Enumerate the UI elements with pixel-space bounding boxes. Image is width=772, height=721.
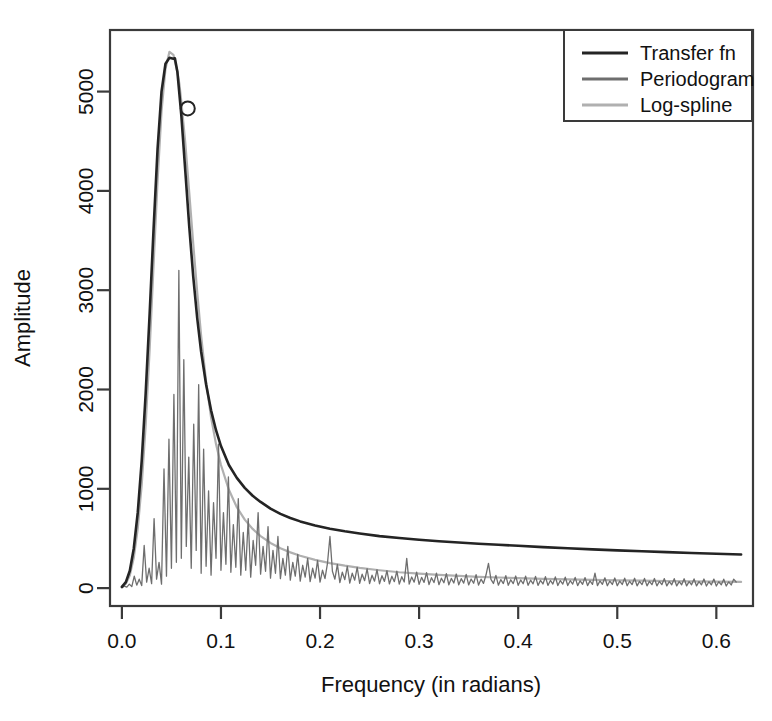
y-axis-ticks: 010002000300040005000 xyxy=(74,68,110,594)
legend-items: Transfer fnPeriodogramLog-spline xyxy=(582,42,755,116)
series-layer xyxy=(122,52,741,588)
x-tick-label: 0.1 xyxy=(206,629,235,652)
y-tick-label: 5000 xyxy=(74,68,97,115)
y-tick-label: 2000 xyxy=(74,366,97,413)
x-axis-title: Frequency (in radians) xyxy=(321,672,541,697)
figure-panel: 0.00.10.20.30.40.50.6 010002000300040005… xyxy=(0,0,772,721)
legend-label-0: Transfer fn xyxy=(640,42,736,64)
legend-label-1: Periodogram xyxy=(640,68,755,90)
x-tick-label: 0.3 xyxy=(405,629,434,652)
series-line-log-spline xyxy=(122,52,741,587)
x-tick-label: 0.4 xyxy=(504,629,534,652)
y-tick-label: 0 xyxy=(74,582,97,594)
legend-label-2: Log-spline xyxy=(640,94,732,116)
series-line-transfer-fn xyxy=(122,58,741,587)
y-tick-label: 4000 xyxy=(74,168,97,215)
x-tick-label: 0.5 xyxy=(603,629,632,652)
y-tick-label: 3000 xyxy=(74,267,97,314)
x-tick-label: 0.0 xyxy=(107,629,136,652)
x-tick-label: 0.6 xyxy=(702,629,731,652)
spectral-density-chart: 0.00.10.20.30.40.50.6 010002000300040005… xyxy=(0,0,772,721)
y-tick-label: 1000 xyxy=(74,465,97,512)
x-tick-label: 0.2 xyxy=(305,629,334,652)
legend: Transfer fnPeriodogramLog-spline xyxy=(564,30,755,121)
y-axis-title: Amplitude xyxy=(10,269,35,367)
x-axis-ticks: 0.00.10.20.30.40.50.6 xyxy=(107,606,731,652)
